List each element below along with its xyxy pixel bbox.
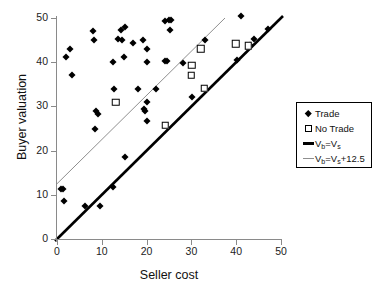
legend-item-no-trade: No Trade	[301, 121, 371, 136]
legend-item-vb-eq-vs: Vb=Vs	[301, 136, 371, 151]
x-tick-label: 10	[89, 245, 115, 257]
data-point-trade	[143, 59, 150, 66]
data-point-trade	[119, 37, 126, 44]
thin-line-icon	[301, 151, 315, 166]
y-tick-mark	[51, 151, 56, 152]
legend-item-vb-eq-vs-plus: Vb=Vs+12.5	[301, 151, 371, 166]
y-tick-mark	[51, 106, 56, 107]
data-point-no-trade	[232, 40, 240, 48]
thick-line-icon	[301, 136, 315, 151]
legend-label-vb-eq-vs-plus: Vb=Vs+12.5	[315, 153, 365, 165]
data-point-trade	[265, 26, 272, 33]
y-tick-mark	[51, 18, 56, 19]
legend-label-trade: Trade	[315, 108, 339, 119]
y-tick-label: 0	[22, 232, 48, 244]
open-square-icon	[301, 121, 315, 136]
scatter-chart-figure: 0102030405001020304050 Seller cost Buyer…	[0, 0, 381, 294]
data-point-trade	[134, 85, 141, 92]
data-point-no-trade	[188, 62, 196, 70]
legend-item-trade: Trade	[301, 106, 371, 121]
data-point-no-trade	[112, 99, 120, 107]
data-point-trade	[189, 93, 196, 100]
filled-diamond-icon	[301, 106, 315, 121]
x-tick-label: 50	[268, 245, 294, 257]
y-tick-label: 50	[22, 11, 48, 23]
data-point-trade	[90, 37, 97, 44]
y-tick-mark	[51, 195, 56, 196]
x-axis-spine	[56, 239, 282, 240]
data-point-trade	[121, 53, 128, 60]
y-tick-label: 10	[22, 188, 48, 200]
data-point-no-trade	[201, 85, 209, 93]
plot-area	[57, 18, 281, 239]
data-point-trade	[81, 202, 88, 209]
data-point-trade	[61, 197, 68, 204]
legend-label-vb-eq-vs: Vb=Vs	[315, 138, 341, 150]
data-point-no-trade	[187, 71, 195, 79]
data-point-trade	[152, 85, 159, 92]
x-axis-title: Seller cost	[57, 268, 281, 282]
data-point-trade	[139, 37, 146, 44]
data-point-trade	[144, 117, 151, 124]
data-point-trade	[234, 57, 241, 64]
data-point-trade	[143, 45, 150, 52]
x-tick-label: 0	[44, 245, 70, 257]
x-tick-label: 30	[178, 245, 204, 257]
y-tick-mark	[51, 239, 56, 240]
data-point-trade	[111, 85, 118, 92]
data-point-no-trade	[245, 42, 253, 50]
data-point-trade	[62, 53, 69, 60]
data-point-no-trade	[161, 122, 169, 130]
data-point-trade	[122, 153, 129, 160]
data-point-trade	[91, 126, 98, 133]
x-tick-label: 40	[223, 245, 249, 257]
legend-label-no-trade: No Trade	[315, 123, 354, 134]
x-tick-label: 20	[134, 245, 160, 257]
data-point-trade	[95, 111, 102, 118]
y-tick-mark	[51, 62, 56, 63]
data-point-trade	[89, 28, 96, 35]
data-point-trade	[69, 72, 76, 79]
data-point-trade	[109, 183, 116, 190]
data-point-trade	[130, 40, 137, 47]
data-point-trade	[96, 203, 103, 210]
y-axis-title: Buyer valuation	[15, 47, 29, 187]
data-point-trade	[201, 37, 208, 44]
data-point-trade	[110, 59, 117, 66]
data-point-trade	[67, 45, 74, 52]
data-point-no-trade	[197, 45, 205, 53]
data-point-trade	[144, 98, 151, 105]
data-point-trade	[166, 27, 173, 34]
chart-legend: Trade No Trade Vb=Vs Vb=Vs+12.5	[296, 102, 372, 168]
data-point-trade	[180, 60, 187, 67]
